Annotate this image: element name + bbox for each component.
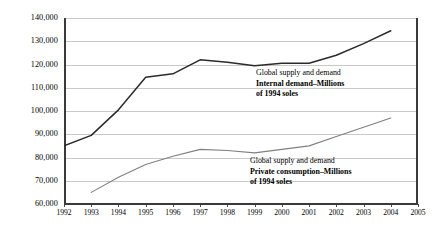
x-axis-tick-label: 1997: [185, 208, 215, 217]
y-axis-tick-label: 110,000: [31, 83, 58, 92]
x-axis-tick-label: 1999: [240, 208, 270, 217]
y-axis-tick-label: 140,000: [31, 13, 58, 22]
x-axis-tick-label: 1993: [76, 208, 106, 217]
x-axis-tick-label: 2000: [267, 208, 297, 217]
y-axis-tick-label: 80,000: [35, 153, 58, 162]
x-axis-tick-label: 1998: [212, 208, 242, 217]
series-lines: [64, 18, 418, 204]
annotation-lower-subtitle: Private consumption–Millions: [250, 167, 351, 178]
annotation-lower-title: Global supply and demand: [250, 156, 351, 167]
annotation-lower-subtitle2: of 1994 soles: [250, 177, 351, 188]
x-axis-tick-mark: [418, 204, 419, 207]
x-axis-tick-label: 1996: [158, 208, 188, 217]
annotation-internal-demand: Global supply and demand Internal demand…: [256, 68, 344, 100]
annotation-upper-subtitle: Internal demand–Millions: [256, 79, 344, 90]
x-axis-tick-label: 1995: [131, 208, 161, 217]
x-axis-tick-label: 2005: [403, 208, 433, 217]
y-axis-tick-label: 100,000: [31, 106, 58, 115]
y-axis-tick-label: 60,000: [35, 199, 58, 208]
y-axis-tick-label: 70,000: [35, 176, 58, 185]
plot-area: [64, 18, 418, 204]
x-axis-tick-label: 2003: [349, 208, 379, 217]
y-axis-tick-label: 120,000: [31, 60, 58, 69]
y-axis-tick-label: 90,000: [35, 129, 58, 138]
annotation-upper-title: Global supply and demand: [256, 68, 344, 79]
x-axis-tick-label: 2002: [321, 208, 351, 217]
chart-container: 60,00070,00080,00090,000100,000110,00012…: [0, 0, 446, 240]
y-axis-tick-label: 130,000: [31, 36, 58, 45]
x-axis-tick-label: 1994: [103, 208, 133, 217]
x-axis-tick-label: 1992: [49, 208, 79, 217]
annotation-upper-subtitle2: of 1994 soles: [256, 89, 344, 100]
x-axis-tick-label: 2004: [376, 208, 406, 217]
annotation-private-consumption: Global supply and demand Private consump…: [250, 156, 351, 188]
x-axis-tick-label: 2001: [294, 208, 324, 217]
